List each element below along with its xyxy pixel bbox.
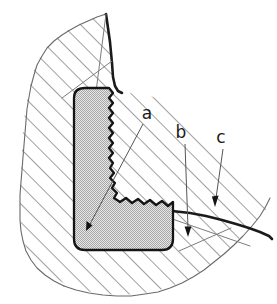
callout-b-label: b xyxy=(176,122,187,142)
callout-c-label: c xyxy=(216,127,225,147)
hatched-body-region xyxy=(0,0,277,304)
figure-root: a b c xyxy=(0,0,277,304)
callout-a-label: a xyxy=(142,103,152,123)
cross-section-diagram: a b c xyxy=(0,0,277,304)
